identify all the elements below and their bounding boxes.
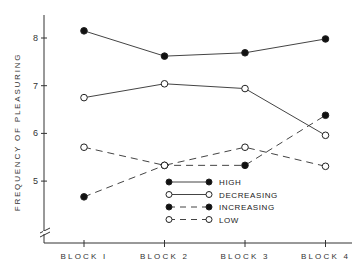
series-line-low [84, 147, 326, 166]
legend-label: HIGH [219, 178, 241, 187]
axes [40, 15, 352, 243]
legend-marker [206, 192, 212, 198]
legend-marker [166, 204, 172, 210]
data-point-decreasing-4 [322, 132, 329, 139]
data-point-increasing-3 [242, 162, 249, 169]
series-decreasing [81, 80, 329, 138]
y-ticks: 5678 [33, 33, 47, 186]
data-point-high-4 [322, 36, 329, 43]
data-point-high-1 [81, 28, 88, 35]
y-tick-label: 8 [33, 33, 38, 43]
data-point-decreasing-1 [81, 94, 88, 101]
legend-marker [206, 217, 212, 223]
series-line-decreasing [84, 84, 326, 136]
data-point-low-1 [81, 144, 88, 151]
legend-item-high: HIGH [166, 178, 241, 187]
data-point-low-4 [322, 163, 329, 170]
axis-break-icon [40, 228, 50, 237]
series-group [81, 28, 329, 201]
legend-marker [206, 204, 212, 210]
y-tick-label: 7 [33, 81, 38, 91]
y-tick-label: 6 [33, 128, 38, 138]
data-point-increasing-4 [322, 112, 329, 119]
series-high [81, 28, 329, 60]
data-point-low-2 [161, 162, 168, 169]
data-point-decreasing-3 [242, 85, 249, 92]
legend-marker [206, 179, 212, 185]
legend-item-decreasing: DECREASING [166, 191, 278, 200]
legend-item-increasing: INCREASING [166, 203, 275, 212]
legend-marker [166, 217, 172, 223]
y-axis-label: FREQUENCY OF PLEASURING [13, 53, 22, 212]
legend-label: LOW [219, 216, 239, 225]
x-tick-label: BLOCK I [61, 252, 108, 261]
legend-item-low: LOW [166, 216, 239, 225]
x-tick-label: BLOCK 3 [220, 252, 269, 261]
legend-marker [166, 179, 172, 185]
legend-label: DECREASING [219, 191, 278, 200]
legend-marker [166, 192, 172, 198]
line-chart: FREQUENCY OF PLEASURING 5678 BLOCK IBLOC… [0, 0, 362, 268]
data-point-high-2 [161, 53, 168, 60]
data-point-high-3 [242, 49, 249, 56]
x-tick-label: BLOCK 4 [301, 252, 350, 261]
data-point-increasing-1 [81, 194, 88, 201]
legend-label: INCREASING [219, 203, 275, 212]
y-tick-label: 5 [33, 176, 38, 186]
series-line-high [84, 31, 326, 56]
data-point-decreasing-2 [161, 80, 168, 87]
data-point-low-3 [242, 144, 249, 151]
legend: HIGHDECREASINGINCREASINGLOW [166, 178, 278, 225]
x-tick-label: BLOCK 2 [140, 252, 189, 261]
